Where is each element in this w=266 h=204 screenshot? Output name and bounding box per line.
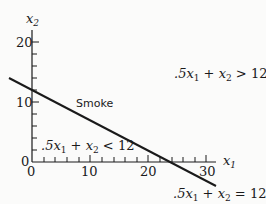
x-axis-ticks bbox=[44, 155, 206, 162]
x-tick-label-30: 30 bbox=[199, 164, 216, 179]
y-tick-label-20: 20 bbox=[16, 35, 33, 50]
constraint-line-smoke bbox=[9, 78, 216, 186]
x-tick-label-20: 20 bbox=[140, 164, 157, 179]
y-axis-label: x2 bbox=[26, 11, 39, 28]
line-name-label: Smoke bbox=[76, 97, 113, 110]
x-tick-label-10: 10 bbox=[81, 164, 98, 179]
x-axis-label: x1 bbox=[223, 153, 236, 170]
region-above-label: .5x1 + x2 > 12 bbox=[174, 66, 266, 83]
line-equation-label: .5x1 + x2 = 12 bbox=[173, 186, 266, 203]
y-axis-ticks bbox=[32, 42, 39, 150]
inequality-graph: x2 20 10 0 0 10 20 30 x1 Smoke .5x1 + x2… bbox=[0, 0, 266, 204]
y-tick-label-10: 10 bbox=[16, 95, 33, 110]
x-tick-label-0: 0 bbox=[27, 164, 35, 179]
region-below-label: .5x1 + x2 < 12 bbox=[41, 138, 134, 155]
